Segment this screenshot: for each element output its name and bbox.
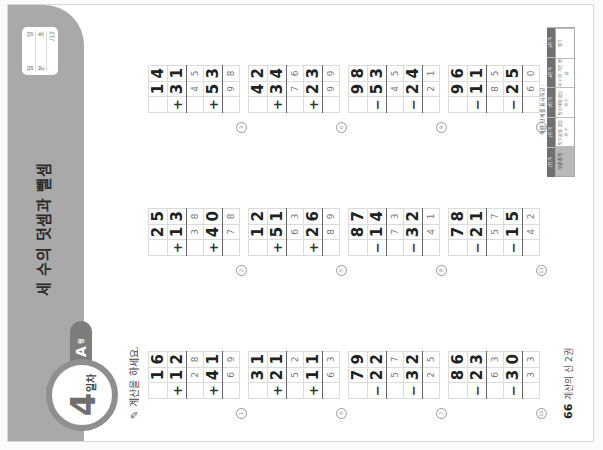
digit-cell: 4 — [204, 367, 223, 383]
answer-cell[interactable]: 8 — [487, 81, 504, 97]
answer-cell[interactable]: 3 — [523, 367, 540, 383]
answer-cell[interactable]: 2 — [523, 209, 540, 225]
answer-cell[interactable]: 7 — [387, 224, 404, 240]
vertical-calc-grid: 98−5345−2421 — [348, 65, 440, 113]
answer-cell[interactable]: 2 — [187, 367, 204, 383]
answer-cell[interactable]: 4 — [187, 81, 204, 97]
vertical-calc-grid: 16+1228+4169 — [148, 351, 240, 399]
answer-cell[interactable]: 8 — [323, 224, 340, 240]
instruction-text: 계산을 하세요. — [129, 346, 140, 406]
digit-cell: 3 — [404, 224, 423, 240]
answer-cell[interactable]: 8 — [187, 209, 204, 225]
answer-cell[interactable]: 3 — [287, 209, 304, 225]
time-row: 분 초 — [36, 31, 47, 71]
cell — [323, 240, 340, 256]
answer-cell[interactable]: 3 — [387, 209, 404, 225]
answer-cell[interactable]: 3 — [487, 352, 504, 368]
operator-cell: − — [468, 383, 487, 399]
answer-cell[interactable]: 9 — [223, 352, 240, 368]
answer-cell[interactable]: 2 — [287, 352, 304, 368]
answer-cell[interactable]: 3 — [323, 352, 340, 368]
answer-cell[interactable]: 0 — [523, 66, 540, 82]
answer-cell[interactable]: 5 — [487, 66, 504, 82]
answer-cell[interactable]: 8 — [223, 66, 240, 82]
digit-cell: 4 — [249, 81, 268, 97]
answer-cell[interactable]: 9 — [323, 66, 340, 82]
answer-cell[interactable]: 6 — [487, 367, 504, 383]
problem-number: 10 — [536, 408, 547, 419]
digit-cell: 3 — [268, 81, 287, 97]
answer-cell[interactable]: 8 — [223, 209, 240, 225]
digit-cell: 6 — [449, 66, 468, 82]
cell — [149, 383, 168, 399]
book-title: 계산의 신 2권 — [564, 348, 574, 399]
answer-cell[interactable]: 4 — [423, 224, 440, 240]
digit-cell: 1 — [268, 352, 287, 368]
digit-cell: 1 — [304, 352, 323, 368]
answer-cell[interactable]: 5 — [423, 352, 440, 368]
answer-cell[interactable]: 7 — [487, 209, 504, 225]
answer-cell[interactable]: 9 — [323, 81, 340, 97]
operator-cell: − — [404, 240, 423, 256]
digit-cell: 4 — [404, 66, 423, 82]
progress-header: 3단계 — [547, 87, 555, 117]
digit-cell: 9 — [349, 81, 368, 97]
answer-cell[interactable]: 7 — [387, 352, 404, 368]
digit-cell: 2 — [249, 66, 268, 82]
answer-cell[interactable]: 5 — [187, 66, 204, 82]
operator-cell: + — [268, 383, 287, 399]
vertical-calc-grid: 12+5163+2689 — [248, 208, 340, 256]
problem-number: 9 — [436, 122, 447, 133]
digit-cell: 4 — [268, 66, 287, 82]
digit-cell: 0 — [204, 209, 223, 225]
digit-cell: 2 — [304, 81, 323, 97]
progress-header: 5단계 — [547, 27, 555, 57]
answer-cell[interactable]: 5 — [387, 367, 404, 383]
answer-cell[interactable]: 8 — [187, 352, 204, 368]
digit-cell: 1 — [468, 209, 487, 225]
answer-cell[interactable]: 6 — [287, 66, 304, 82]
digit-cell: 1 — [149, 81, 168, 97]
digit-cell: 2 — [404, 81, 423, 97]
problem-number: 7 — [436, 408, 447, 419]
digit-cell: 1 — [468, 81, 487, 97]
answer-cell[interactable]: 2 — [423, 367, 440, 383]
answer-cell[interactable]: 9 — [323, 209, 340, 225]
answer-cell[interactable]: 3 — [187, 224, 204, 240]
answer-cell[interactable]: 6 — [323, 367, 340, 383]
answer-cell[interactable]: 6 — [523, 81, 540, 97]
answer-cell[interactable]: 4 — [387, 81, 404, 97]
digit-cell: 6 — [304, 209, 323, 225]
vertical-calc-grid: 31+2152+1163 — [248, 351, 340, 399]
answer-cell[interactable]: 7 — [223, 224, 240, 240]
problem-number: 2 — [236, 265, 247, 276]
cell — [523, 97, 540, 113]
answer-cell[interactable]: 9 — [223, 81, 240, 97]
progress-step: 받아내림 없는 세 수 — [556, 87, 574, 117]
cell — [223, 97, 240, 113]
answer-cell[interactable]: 1 — [423, 66, 440, 82]
digit-cell: 1 — [268, 209, 287, 225]
operator-cell: + — [204, 240, 223, 256]
answer-cell[interactable]: 2 — [423, 81, 440, 97]
vertical-calc-grid: 96−1185−2560 — [448, 65, 540, 113]
answer-cell[interactable]: 6 — [287, 224, 304, 240]
cell — [423, 383, 440, 399]
answer-cell[interactable]: 5 — [387, 66, 404, 82]
progress-header-row: 1단계 2단계 3단계 4단계 5단계 — [547, 27, 555, 177]
answer-cell[interactable]: 5 — [287, 367, 304, 383]
operator-cell: − — [404, 383, 423, 399]
digit-cell: 8 — [449, 367, 468, 383]
answer-cell[interactable]: 5 — [487, 224, 504, 240]
answer-cell[interactable]: 7 — [287, 81, 304, 97]
answer-cell[interactable]: 3 — [523, 352, 540, 368]
progress-caption: 학습 단계를 표시해요. — [538, 85, 545, 135]
problem-8: 887−1473−3241 — [348, 166, 454, 276]
operator-cell: + — [168, 240, 187, 256]
cell — [249, 240, 268, 256]
cell — [149, 240, 168, 256]
answer-cell[interactable]: 1 — [423, 209, 440, 225]
answer-cell[interactable]: 4 — [523, 224, 540, 240]
answer-cell[interactable]: 6 — [223, 367, 240, 383]
cell — [387, 97, 404, 113]
